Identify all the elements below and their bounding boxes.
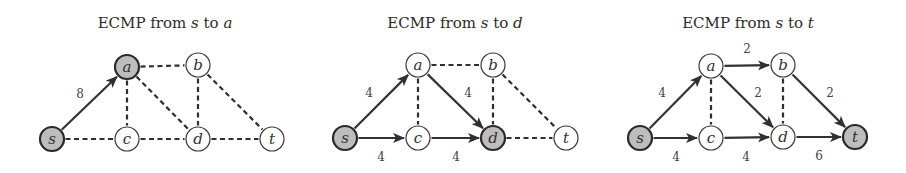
panel-s-to-t: ECMP from s to t sabcdt 4422246 [628,14,867,164]
node-label: t [852,128,859,146]
panel-s-to-d: ECMP from s to d sabcdt 4444 [333,14,578,164]
edge-label-layer: 4422246 [658,42,834,164]
edge-weight-label: 4 [672,150,680,164]
node-label: a [707,57,716,75]
node-label: a [414,56,423,74]
edge-weight-label: 4 [742,150,750,164]
node-t: t [554,126,578,150]
link-edge-a-b [141,65,185,66]
ecmp-figure: ECMP from s to a sabcdt 8 ECMP from s to… [0,0,906,173]
node-c: c [406,126,430,150]
flow-edge-a-b [725,65,770,66]
node-label: d [488,129,498,147]
link-edge-b-t [503,75,557,129]
node-a: a [115,55,139,79]
node-a: a [699,54,723,78]
node-d: d [186,127,210,151]
panel-s-to-a: ECMP from s to a sabcdt 8 [40,14,284,151]
flow-edge-s-a [650,76,702,128]
node-s: s [40,127,64,151]
node-label: c [414,129,423,147]
link-edge-b-t [208,75,263,130]
flow-edge-b-t [793,75,846,128]
panel-title: ECMP from s to a [98,14,233,32]
edge-weight-label: 8 [76,87,84,101]
node-label: t [269,130,276,148]
flow-edge-s-a [62,77,117,130]
flow-edge-a-d [721,76,773,128]
node-label: c [707,129,716,147]
ecmp-diagrams-svg: ECMP from s to a sabcdt 8 ECMP from s to… [0,0,906,173]
node-label: a [123,58,132,76]
flow-edge-s-a [355,75,409,129]
node-t: t [843,125,867,149]
link-edge-a-d [137,77,189,130]
node-a: a [406,53,430,77]
node-label: s [636,129,644,147]
node-b: b [771,53,795,77]
node-b: b [481,53,505,77]
edge-weight-label: 4 [452,150,460,164]
node-label: s [48,130,56,148]
node-label: t [563,129,570,147]
flow-edge-c-d [725,137,770,138]
node-d: d [771,125,795,149]
edge-weight-label: 2 [743,42,751,56]
node-s: s [333,126,357,150]
node-label: d [193,130,203,148]
node-c: c [115,127,139,151]
node-label: c [123,130,132,148]
edge-weight-label: 6 [815,149,823,163]
panel-title: ECMP from s to t [682,14,815,32]
edge-weight-label: 4 [464,86,472,100]
edge-layer [650,65,846,138]
edge-layer [62,65,263,139]
node-c: c [699,126,723,150]
edge-weight-label: 4 [377,150,385,164]
node-label: b [778,56,788,74]
node-t: t [260,127,284,151]
node-label: s [341,129,349,147]
edge-weight-label: 4 [365,86,373,100]
node-label: b [488,56,498,74]
node-label: b [193,56,203,74]
edge-layer [355,65,557,138]
node-b: b [186,53,210,77]
edge-label-layer: 8 [76,87,84,101]
panel-title: ECMP from s to d [387,14,522,32]
node-label: d [778,128,788,146]
edge-weight-label: 2 [826,86,834,100]
node-s: s [628,126,652,150]
edge-weight-label: 4 [658,86,666,100]
flow-edge-a-d [428,74,483,128]
node-d: d [481,126,505,150]
edge-weight-label: 2 [754,86,762,100]
